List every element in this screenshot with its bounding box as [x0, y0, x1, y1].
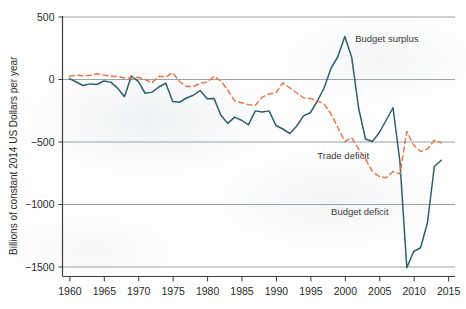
gridlines-group — [63, 17, 456, 267]
chart-annotations-group: Budget surplusTrade deficitBudget defici… — [317, 33, 418, 218]
x-tick-label: 1990 — [265, 285, 289, 297]
y-tick-label: −500 — [31, 136, 55, 148]
x-tick-label: 2005 — [368, 285, 392, 297]
y-tick-label: 0 — [49, 73, 55, 85]
x-tick-label: 1975 — [161, 285, 185, 297]
y-axis-ticks: 5000−500−1000−1500 — [25, 11, 63, 273]
x-tick-label: 2010 — [403, 285, 427, 297]
series-line — [69, 37, 441, 268]
chart-annotation: Budget surplus — [355, 33, 419, 44]
x-tick-label: 1960 — [58, 285, 82, 297]
chart-figure: 5000−500−1000−1500 196019651970197519801… — [0, 0, 466, 309]
x-tick-label: 2000 — [334, 285, 358, 297]
y-tick-label: −1500 — [25, 261, 55, 273]
chart-annotation: Trade deficit — [317, 150, 369, 161]
x-tick-label: 1970 — [127, 285, 151, 297]
data-series-group — [69, 37, 441, 268]
x-axis-ticks: 1960196519701975198019851990199520002005… — [58, 277, 460, 298]
x-tick-label: 1985 — [230, 285, 254, 297]
x-tick-label: 1965 — [93, 285, 117, 297]
x-tick-label: 2015 — [437, 285, 461, 297]
y-axis-title: Billions of constant 2014 US Dollars per… — [8, 56, 19, 255]
x-tick-label: 1980 — [196, 285, 220, 297]
series-line — [69, 73, 441, 178]
x-tick-label: 1995 — [299, 285, 323, 297]
y-tick-label: 500 — [37, 11, 55, 23]
chart-annotation: Budget deficit — [331, 206, 389, 217]
y-tick-label: −1000 — [25, 198, 55, 210]
line-chart-canvas: 5000−500−1000−1500 196019651970197519801… — [0, 0, 466, 309]
